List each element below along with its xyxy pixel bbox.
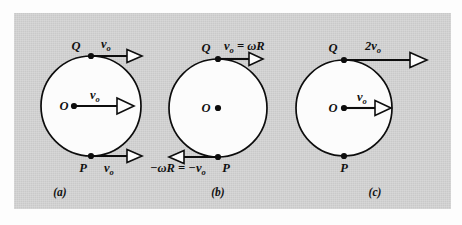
point-q-label-a: Q (71, 39, 80, 53)
point-p-label-b: P (222, 161, 230, 175)
panel-caption-a: (a) (53, 186, 67, 199)
point-p-label-a: P (79, 161, 87, 175)
rolling-wheel-diagram: Q vo O vo P vo (a) (0, 0, 462, 225)
point-q-dot-b (215, 56, 221, 62)
point-q-dot-c (341, 57, 347, 63)
center-o-label-a: O (59, 99, 68, 113)
center-o-label-c: O (328, 101, 337, 115)
point-p-label-c: P (340, 161, 348, 175)
point-q-label-b: Q (201, 41, 210, 55)
bottom-vector-label-a: vo (104, 161, 114, 177)
point-p-dot-b (215, 154, 221, 160)
figure-root: Q vo O vo P vo (a) (0, 0, 462, 225)
bottom-vector-label-b: −ωR = −vo (150, 161, 206, 177)
center-o-dot-b (215, 105, 221, 111)
top-vector-label-b: vo = ωR (224, 39, 265, 55)
top-vector-label-a: vo (101, 37, 111, 53)
panel-a: Q vo O vo P vo (a) (41, 37, 142, 199)
point-q-label-c: Q (328, 41, 337, 55)
panel-b: Q vo = ωR O P −ωR = −vo (b) (150, 39, 267, 199)
point-p-dot-c (341, 153, 347, 159)
panel-caption-c: (c) (369, 186, 382, 199)
center-o-label-b: O (201, 101, 210, 115)
top-vector-label-c: 2vo (364, 39, 381, 55)
panel-caption-b: (b) (211, 186, 225, 199)
point-p-dot-a (88, 153, 94, 159)
point-q-dot-a (88, 53, 94, 59)
panel-c: Q 2vo O vo P (c) (296, 39, 427, 199)
